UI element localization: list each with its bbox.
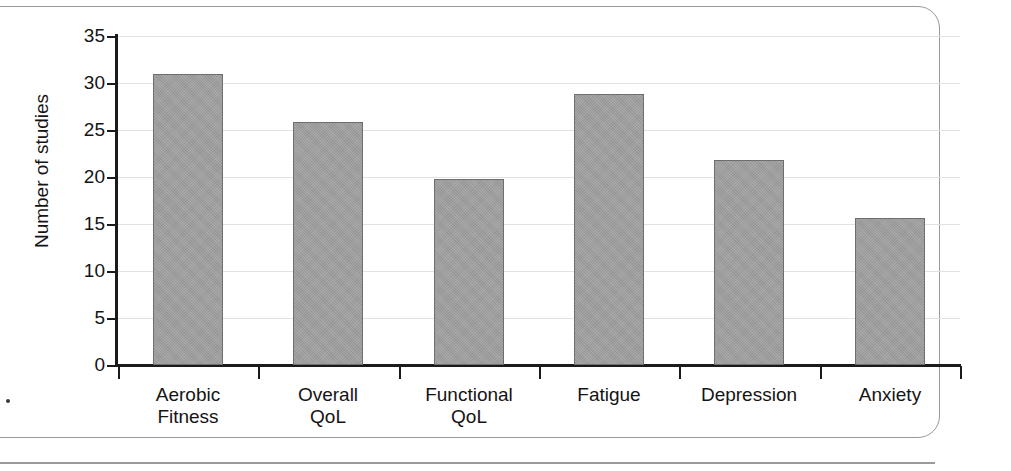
y-axis-tick-label: 5 [65, 308, 105, 327]
x-axis-tick [960, 366, 962, 379]
y-axis-title: Number of studies [31, 61, 53, 281]
x-axis-category-label: Fatigue [539, 384, 679, 406]
bar [714, 160, 784, 365]
y-axis-tick-label: 35 [65, 26, 105, 45]
y-axis-tick [107, 83, 116, 85]
x-axis-tick [118, 366, 120, 379]
bar [293, 122, 363, 365]
bar [855, 218, 925, 365]
y-axis-tick [107, 177, 116, 179]
y-axis-tick-label: 25 [65, 120, 105, 139]
x-axis-tick [539, 366, 541, 379]
x-axis-category-label: Depression [679, 384, 819, 406]
x-axis-tick [258, 366, 260, 379]
y-axis-tick [107, 130, 116, 132]
x-axis-tick [399, 366, 401, 379]
y-axis-tick-label: 20 [65, 167, 105, 186]
bar [574, 94, 644, 365]
bar [153, 74, 223, 365]
x-axis-category-label: Functional QoL [399, 384, 539, 428]
bar [434, 179, 504, 365]
y-axis-tick [107, 271, 116, 273]
y-axis-tick-label: 15 [65, 214, 105, 233]
y-axis-tick [107, 365, 116, 367]
x-axis-tick [820, 366, 822, 379]
x-axis-category-label: Overall QoL [258, 384, 398, 428]
plot-area [118, 36, 960, 365]
x-axis-category-label: Aerobic Fitness [118, 384, 258, 428]
scan-artifact-speck [6, 399, 10, 403]
chart-page: Number of studies 05101520253035 Aerobic… [0, 0, 1011, 471]
x-axis-tick [679, 366, 681, 379]
y-axis-tick [107, 318, 116, 320]
y-axis-tick-label: 0 [65, 355, 105, 374]
y-axis-tick-label: 30 [65, 73, 105, 92]
y-axis-tick [107, 36, 116, 38]
x-axis-category-label: Anxiety [820, 384, 960, 406]
page-bottom-rule [0, 462, 935, 464]
y-axis-tick [107, 224, 116, 226]
y-axis-tick-label: 10 [65, 261, 105, 280]
